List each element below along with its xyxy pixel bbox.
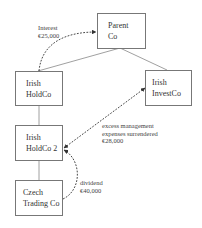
- entity-label: Trading Co: [23, 198, 62, 209]
- entity-label: Co: [108, 31, 145, 42]
- entity-label: Irish: [26, 132, 62, 143]
- entity-czech-trading-co: Czech Trading Co: [15, 180, 63, 216]
- entity-irish-investco: Irish InvestCo: [145, 70, 192, 106]
- entity-label: HoldCo 2: [26, 143, 62, 154]
- entity-label: InvestCo: [152, 88, 191, 99]
- entity-label: Parent: [108, 20, 145, 31]
- entity-irish-holdco: Irish HoldCo: [15, 71, 63, 106]
- mgmt-expenses-flow-label: excess management expenses surrendered €…: [102, 122, 158, 145]
- entity-label: HoldCo: [26, 89, 62, 100]
- interest-flow-label: Interest €25,000: [38, 24, 59, 39]
- entity-label: Irish: [26, 78, 62, 89]
- dividend-flow-arrow: [63, 150, 77, 199]
- ownership-line-parent-holdco: [38, 48, 120, 71]
- dividend-flow-label: dividend €40,000: [80, 179, 103, 194]
- entity-parent-co: Parent Co: [97, 13, 146, 49]
- entity-label: Czech: [23, 187, 62, 198]
- ownership-line-parent-investco: [120, 48, 167, 70]
- entity-irish-holdco-2: Irish HoldCo 2: [15, 125, 63, 161]
- entity-label: Irish: [152, 77, 191, 88]
